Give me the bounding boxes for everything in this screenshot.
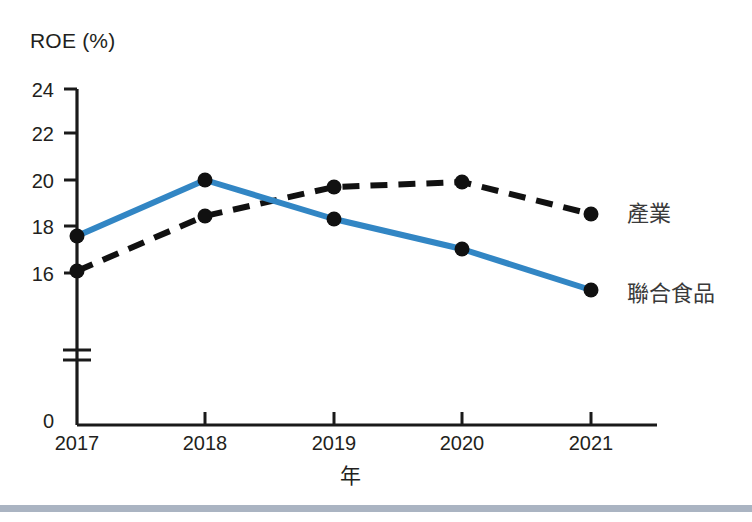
- x-axis-title: 年: [0, 465, 700, 486]
- x-tick-label-2017: 2017: [37, 433, 117, 453]
- x-tick-label-2018: 2018: [165, 433, 245, 453]
- x-axis-ticks: [205, 412, 591, 425]
- y-tick-label-18: 18: [14, 217, 54, 237]
- chart-figure: ROE (%) 24 22 20 18 16 0 2017 2018 2019 …: [0, 0, 752, 522]
- y-tick-label-24: 24: [14, 80, 54, 100]
- y-axis-ticks: [64, 89, 77, 273]
- y-tick-label-22: 22: [14, 124, 54, 144]
- y-axis-title: ROE (%): [30, 30, 115, 51]
- x-tick-label-2019: 2019: [294, 433, 374, 453]
- y-tick-label-20: 20: [14, 171, 54, 191]
- series-label-industry: 產業: [627, 203, 671, 225]
- y-tick-label-16: 16: [14, 264, 54, 284]
- bottom-divider: [0, 505, 752, 512]
- x-tick-label-2020: 2020: [422, 433, 502, 453]
- series-label-company: 聯合食品: [627, 283, 715, 305]
- x-tick-label-2021: 2021: [551, 433, 631, 453]
- y-tick-label-0: 0: [14, 411, 54, 431]
